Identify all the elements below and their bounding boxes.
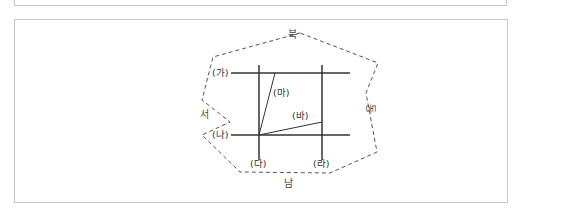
line-ba: [259, 122, 322, 135]
label-north: 북: [288, 29, 297, 40]
label-da: (다): [250, 158, 266, 169]
label-ba: (바): [292, 110, 308, 121]
label-ma: (마): [273, 87, 289, 98]
label-east: 동: [365, 104, 376, 113]
label-west: 서: [200, 109, 209, 120]
label-na: (나): [212, 129, 228, 140]
label-south: 남: [284, 178, 293, 189]
map-diagram: 북 남 서 동 (가) (나) (다) (라) (마) (바): [0, 0, 578, 217]
label-ga: (가): [212, 67, 228, 78]
region-boundary: [202, 33, 378, 173]
line-ma: [259, 73, 275, 135]
label-ra: (라): [313, 158, 329, 169]
